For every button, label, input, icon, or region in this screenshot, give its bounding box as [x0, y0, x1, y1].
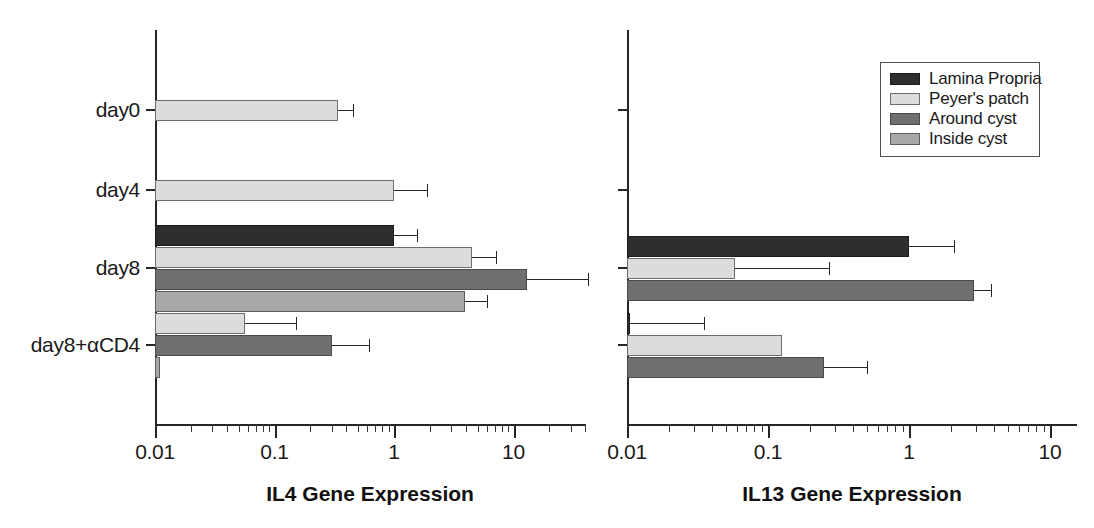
bar-il13-2-0: [627, 236, 909, 257]
bar-il13-2-2: [627, 280, 974, 301]
il13-x-tick-major: [627, 424, 629, 438]
bar-il13-3-1: [627, 335, 782, 356]
il13-x-ticklabel: 0.1: [754, 440, 782, 464]
il13-x-ticklabel: 1: [903, 440, 914, 464]
il13-x-tick-minor: [1028, 424, 1029, 432]
legend-swatch-icon-0: [890, 73, 920, 85]
legend-swatch-icon-3: [890, 133, 920, 145]
errorbar-cap-il13-3-2: [867, 361, 868, 374]
errorbar-cap-il13-2-1: [829, 262, 830, 275]
il13-x-tick-minor: [1008, 424, 1009, 432]
il13-x-tick-minor: [810, 424, 811, 432]
errorbar-line-il13-2-2: [974, 290, 991, 291]
il13-x-tick-minor: [1036, 424, 1037, 432]
errorbar-cap-il13-3-0: [704, 317, 705, 330]
il13-x-tick-minor: [878, 424, 879, 432]
legend-label-2: Around cyst: [929, 109, 1017, 129]
il13-x-tick-minor: [835, 424, 836, 432]
il13-axis-title: IL13 Gene Expression: [742, 482, 961, 506]
il13-x-tick-minor: [754, 424, 755, 432]
il13-x-tick-minor: [994, 424, 995, 432]
errorbar-cap-il13-2-0: [954, 240, 955, 253]
il13-x-tick-minor: [737, 424, 738, 432]
il13-x-tick-minor: [951, 424, 952, 432]
il13-x-tick-minor: [867, 424, 868, 432]
figure-canvas: 0.010.1110 day0day4day8day8+αCD4 IL4 Gen…: [0, 0, 1094, 528]
errorbar-line-il13-3-2: [824, 367, 866, 368]
errorbar-line-il13-2-1: [735, 268, 829, 269]
il13-x-tick-minor: [762, 424, 763, 432]
il13-x-tick-minor: [887, 424, 888, 432]
legend-swatch-icon-1: [890, 93, 920, 105]
il13-x-tick-minor: [1019, 424, 1020, 432]
legend-item-0: Lamina Propria: [890, 69, 1030, 89]
il13-x-tick-minor: [669, 424, 670, 432]
il13-x-tick-minor: [726, 424, 727, 432]
il13-x-tick-minor: [853, 424, 854, 432]
errorbar-line-il13-2-0: [909, 246, 954, 247]
legend-label-1: Peyer's patch: [929, 89, 1029, 109]
il13-x-tick-minor: [694, 424, 695, 432]
legend: Lamina PropriaPeyer's patchAround cystIn…: [880, 62, 1040, 157]
il13-x-ticklabel: 0.01: [607, 440, 647, 464]
bar-il13-2-1: [627, 258, 735, 279]
il13-x-tick-minor: [903, 424, 904, 432]
il13-x-ticklabel: 10: [1039, 440, 1062, 464]
il13-x-tick-major: [768, 424, 770, 438]
legend-label-3: Inside cyst: [929, 129, 1007, 149]
il13-x-tick-minor: [895, 424, 896, 432]
il13-x-tick-major: [909, 424, 911, 438]
legend-label-0: Lamina Propria: [929, 69, 1041, 89]
il13-x-tick-minor: [1044, 424, 1045, 432]
errorbar-line-il13-3-0: [630, 323, 704, 324]
legend-item-3: Inside cyst: [890, 129, 1030, 149]
il13-x-tick-minor: [746, 424, 747, 432]
legend-item-2: Around cyst: [890, 109, 1030, 129]
il13-x-tick-minor: [712, 424, 713, 432]
il13-x-tick-major: [1050, 424, 1052, 438]
bar-il13-3-2: [627, 357, 824, 378]
legend-swatch-icon-2: [890, 113, 920, 125]
legend-item-1: Peyer's patch: [890, 89, 1030, 109]
il13-x-tick-minor: [976, 424, 977, 432]
errorbar-cap-il13-2-2: [991, 284, 992, 297]
